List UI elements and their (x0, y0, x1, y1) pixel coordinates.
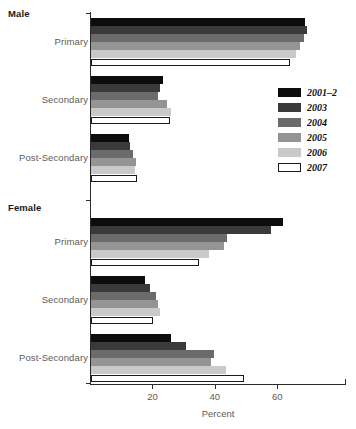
bar (91, 234, 227, 242)
bar (91, 334, 171, 342)
bar (91, 308, 160, 316)
x-axis-line (90, 384, 346, 385)
bar (91, 59, 290, 67)
bar (91, 276, 145, 284)
bar (91, 350, 214, 358)
bar (91, 18, 305, 26)
bar (91, 226, 271, 234)
plot-area: 204060 Percent (90, 12, 346, 384)
bar (91, 175, 137, 183)
legend-swatch-icon (278, 163, 301, 172)
y-axis-tick (86, 200, 91, 201)
bar (91, 358, 211, 366)
bar (91, 284, 150, 292)
x-tick-20 (152, 384, 153, 389)
bar (91, 150, 133, 158)
y-axis-tick (86, 383, 91, 384)
bar (91, 366, 226, 374)
legend-label: 2007 (307, 162, 327, 173)
y-axis-tick (86, 13, 91, 14)
bar (91, 158, 136, 166)
legend-item[interactable]: 2003 (278, 100, 356, 115)
x-axis-title: Percent (202, 408, 235, 419)
group-label-female: Female (8, 202, 41, 213)
x-tick-label-20: 20 (147, 391, 158, 402)
legend-item[interactable]: 2006 (278, 145, 356, 160)
bar (91, 250, 209, 258)
bar (91, 108, 171, 116)
x-tick-label-60: 60 (272, 391, 283, 402)
bar (91, 300, 158, 308)
legend-label: 2005 (307, 132, 327, 143)
bar (91, 142, 130, 150)
category-label-primary: Primary (55, 36, 88, 47)
legend-label: 2003 (307, 102, 327, 113)
bar (91, 34, 304, 42)
bar (91, 76, 163, 84)
bar (91, 292, 156, 300)
x-tick-60 (277, 384, 278, 389)
bar (91, 134, 129, 142)
bar (91, 26, 307, 34)
category-label-secondary: Secondary (42, 294, 88, 305)
legend-label: 2004 (307, 117, 327, 128)
legend-label: 2001–2 (307, 87, 337, 98)
category-label-secondary: Secondary (42, 94, 88, 105)
y-axis-line (90, 12, 91, 384)
legend-swatch-icon (278, 148, 301, 157)
bar (91, 50, 296, 58)
legend-swatch-icon (278, 103, 301, 112)
bar (91, 166, 135, 174)
x-axis-end-cap (90, 379, 91, 385)
legend-swatch-icon (278, 118, 301, 127)
bar-chart: Male Female PrimarySecondaryPost-Seconda… (0, 0, 356, 429)
bar (91, 218, 283, 226)
x-tick-40 (215, 384, 216, 389)
legend-item[interactable]: 2001–2 (278, 85, 356, 100)
bar (91, 42, 300, 50)
bar (91, 92, 158, 100)
bar (91, 84, 160, 92)
bar (91, 242, 224, 250)
category-label-post-secondary: Post-Secondary (19, 152, 88, 163)
x-tick-label-40: 40 (210, 391, 221, 402)
bar (91, 342, 186, 350)
category-label-post-secondary: Post-Secondary (19, 352, 88, 363)
bar (91, 375, 244, 383)
x-axis-end-cap (345, 379, 346, 385)
group-label-male: Male (8, 8, 30, 19)
legend-item[interactable]: 2007 (278, 160, 356, 175)
legend-label: 2006 (307, 147, 327, 158)
legend: 2001–220032004200520062007 (278, 85, 356, 175)
bar (91, 100, 167, 108)
bar (91, 317, 153, 325)
category-label-primary: Primary (55, 236, 88, 247)
bar (91, 259, 199, 267)
bar (91, 117, 170, 125)
legend-swatch-icon (278, 88, 301, 97)
legend-item[interactable]: 2004 (278, 115, 356, 130)
legend-item[interactable]: 2005 (278, 130, 356, 145)
legend-swatch-icon (278, 133, 301, 142)
